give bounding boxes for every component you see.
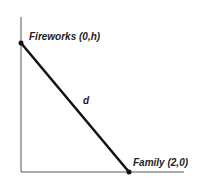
fireworks-label: Fireworks (0,h) — [29, 31, 100, 42]
point-fireworks — [19, 41, 24, 46]
segment-label: d — [83, 95, 89, 106]
segment-d — [21, 43, 129, 172]
family-label: Family (2,0) — [133, 157, 188, 168]
point-family — [127, 170, 132, 175]
